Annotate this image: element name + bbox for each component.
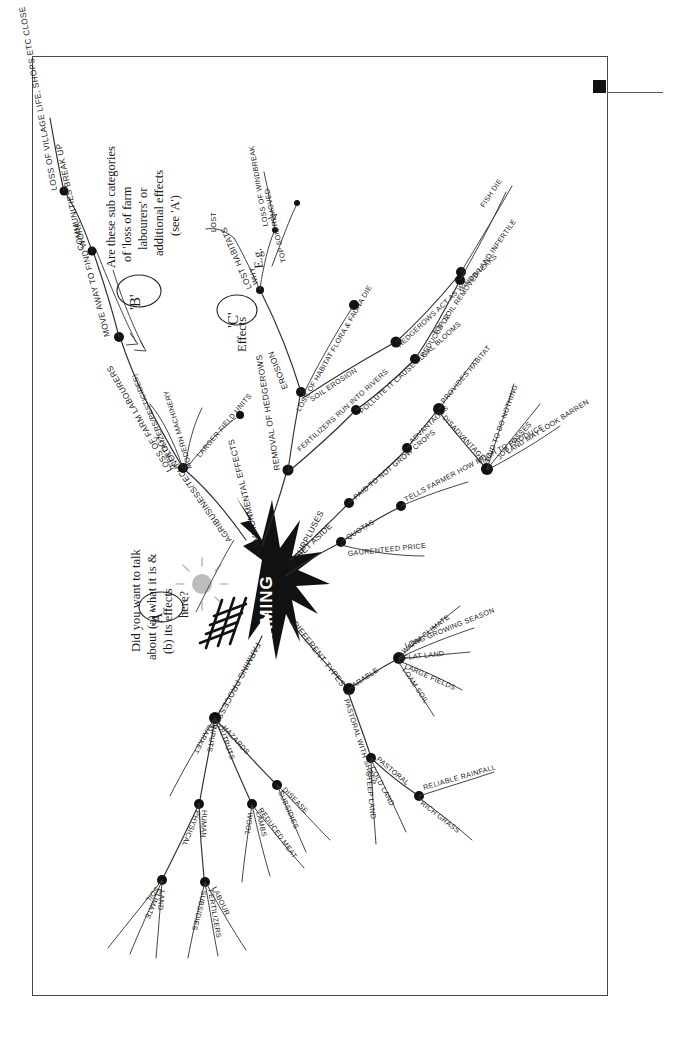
label-land-may-look-barren: LAND MAY LOOK BARREN xyxy=(504,397,590,456)
label-eg: E.g. xyxy=(250,248,266,269)
node-dot xyxy=(294,200,300,206)
label-subsidies: SUBSIDIES xyxy=(190,890,209,932)
mind-map-drawing: FARMING xyxy=(0,0,673,1059)
annotation-B-line1: Are these sub categories xyxy=(104,146,118,268)
annotation-B-marker: 'B' xyxy=(127,294,143,310)
branch-different-types: DIFFERENT TYPES ARABLE WARM CLIMATE LONG… xyxy=(290,606,497,844)
label-communities-break-up: COMMUNITIES BREAK UP xyxy=(53,143,86,252)
label-erosion: EROSION xyxy=(265,350,289,391)
label-arable: ARABLE xyxy=(350,665,380,689)
label-loss-of-village-life: LOSS OF VILLAGE LIFE, SHOPS ETC CLOSE xyxy=(17,6,59,192)
annotation-B-line3: labourers' or xyxy=(136,187,150,250)
label-human: HUMAN xyxy=(199,810,209,838)
label-rich-grass: RICH GRASS xyxy=(419,798,462,834)
label-loss-of-windbreak: LOSS OF WINDBREAK xyxy=(247,145,270,227)
annotation-A-line1: Did you want to talk xyxy=(129,548,143,652)
field-sketch-icon xyxy=(200,598,246,648)
label-larger-field-units: LARGER FIELD UNITS xyxy=(195,392,254,460)
annotation-C-label: Effects xyxy=(235,317,249,352)
page-canvas: when teachers can get access to not only… xyxy=(0,0,673,1059)
branch-farming-processes: FARMING PROCESSES MARKET INPUTS PHYSICAL… xyxy=(108,636,330,958)
annotation-B: 'B' Are these sub categories of 'loss of… xyxy=(96,146,182,351)
label-quotas: QUOTAS xyxy=(344,517,376,541)
label-long-growing-season: LONG GROWING SEASON xyxy=(403,606,495,650)
label-wool: WOOL xyxy=(243,812,255,836)
annotation-A-line3: (b) its effects xyxy=(161,588,175,654)
branch-set-aside: SET ASIDE PAID TO NOT GROW CROPS ADVANTA… xyxy=(290,343,590,560)
annotation-A-line2: about (a) what it is & xyxy=(145,553,159,660)
branch-label-different-types: DIFFERENT TYPES xyxy=(290,619,347,689)
annotation-A-line4: here? xyxy=(177,590,191,618)
annotation-B-line4: additional effects xyxy=(152,170,166,256)
branch-label-farming-processes: FARMING PROCESSES xyxy=(209,641,263,731)
label-lost-word: LOST xyxy=(209,212,218,232)
label-reliable-rainfall: RELIABLE RAINFALL xyxy=(422,762,497,791)
label-lost-habitats: LOST HABITATS xyxy=(218,225,253,291)
annotation-B-line2: of 'loss of farm xyxy=(120,186,134,262)
annotation-B-line5: (see 'A') xyxy=(168,195,182,236)
label-provides-habitat: PROVIDES HABITAT xyxy=(439,343,493,405)
annotation-C: 'C' Effects xyxy=(217,295,257,352)
